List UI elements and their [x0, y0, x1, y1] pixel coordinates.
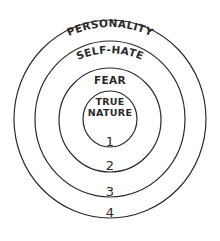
layer-4-label: PERSONALITY — [65, 17, 155, 38]
layer-4-number: 4 — [106, 205, 114, 220]
layer-2-number: 2 — [106, 158, 114, 173]
layer-3-number: 3 — [106, 184, 114, 199]
layer-1-label-line1: TRUE — [95, 96, 124, 107]
layer-1-label-line2: NATURE — [88, 107, 132, 118]
layer-1-number: 1 — [106, 134, 114, 149]
layer-2-label: FEAR — [94, 74, 126, 86]
concentric-layers-diagram: PERSONALITY SELF-HATE FEAR TRUE NATURE 1… — [0, 0, 220, 241]
circle-layer-3 — [35, 41, 185, 197]
